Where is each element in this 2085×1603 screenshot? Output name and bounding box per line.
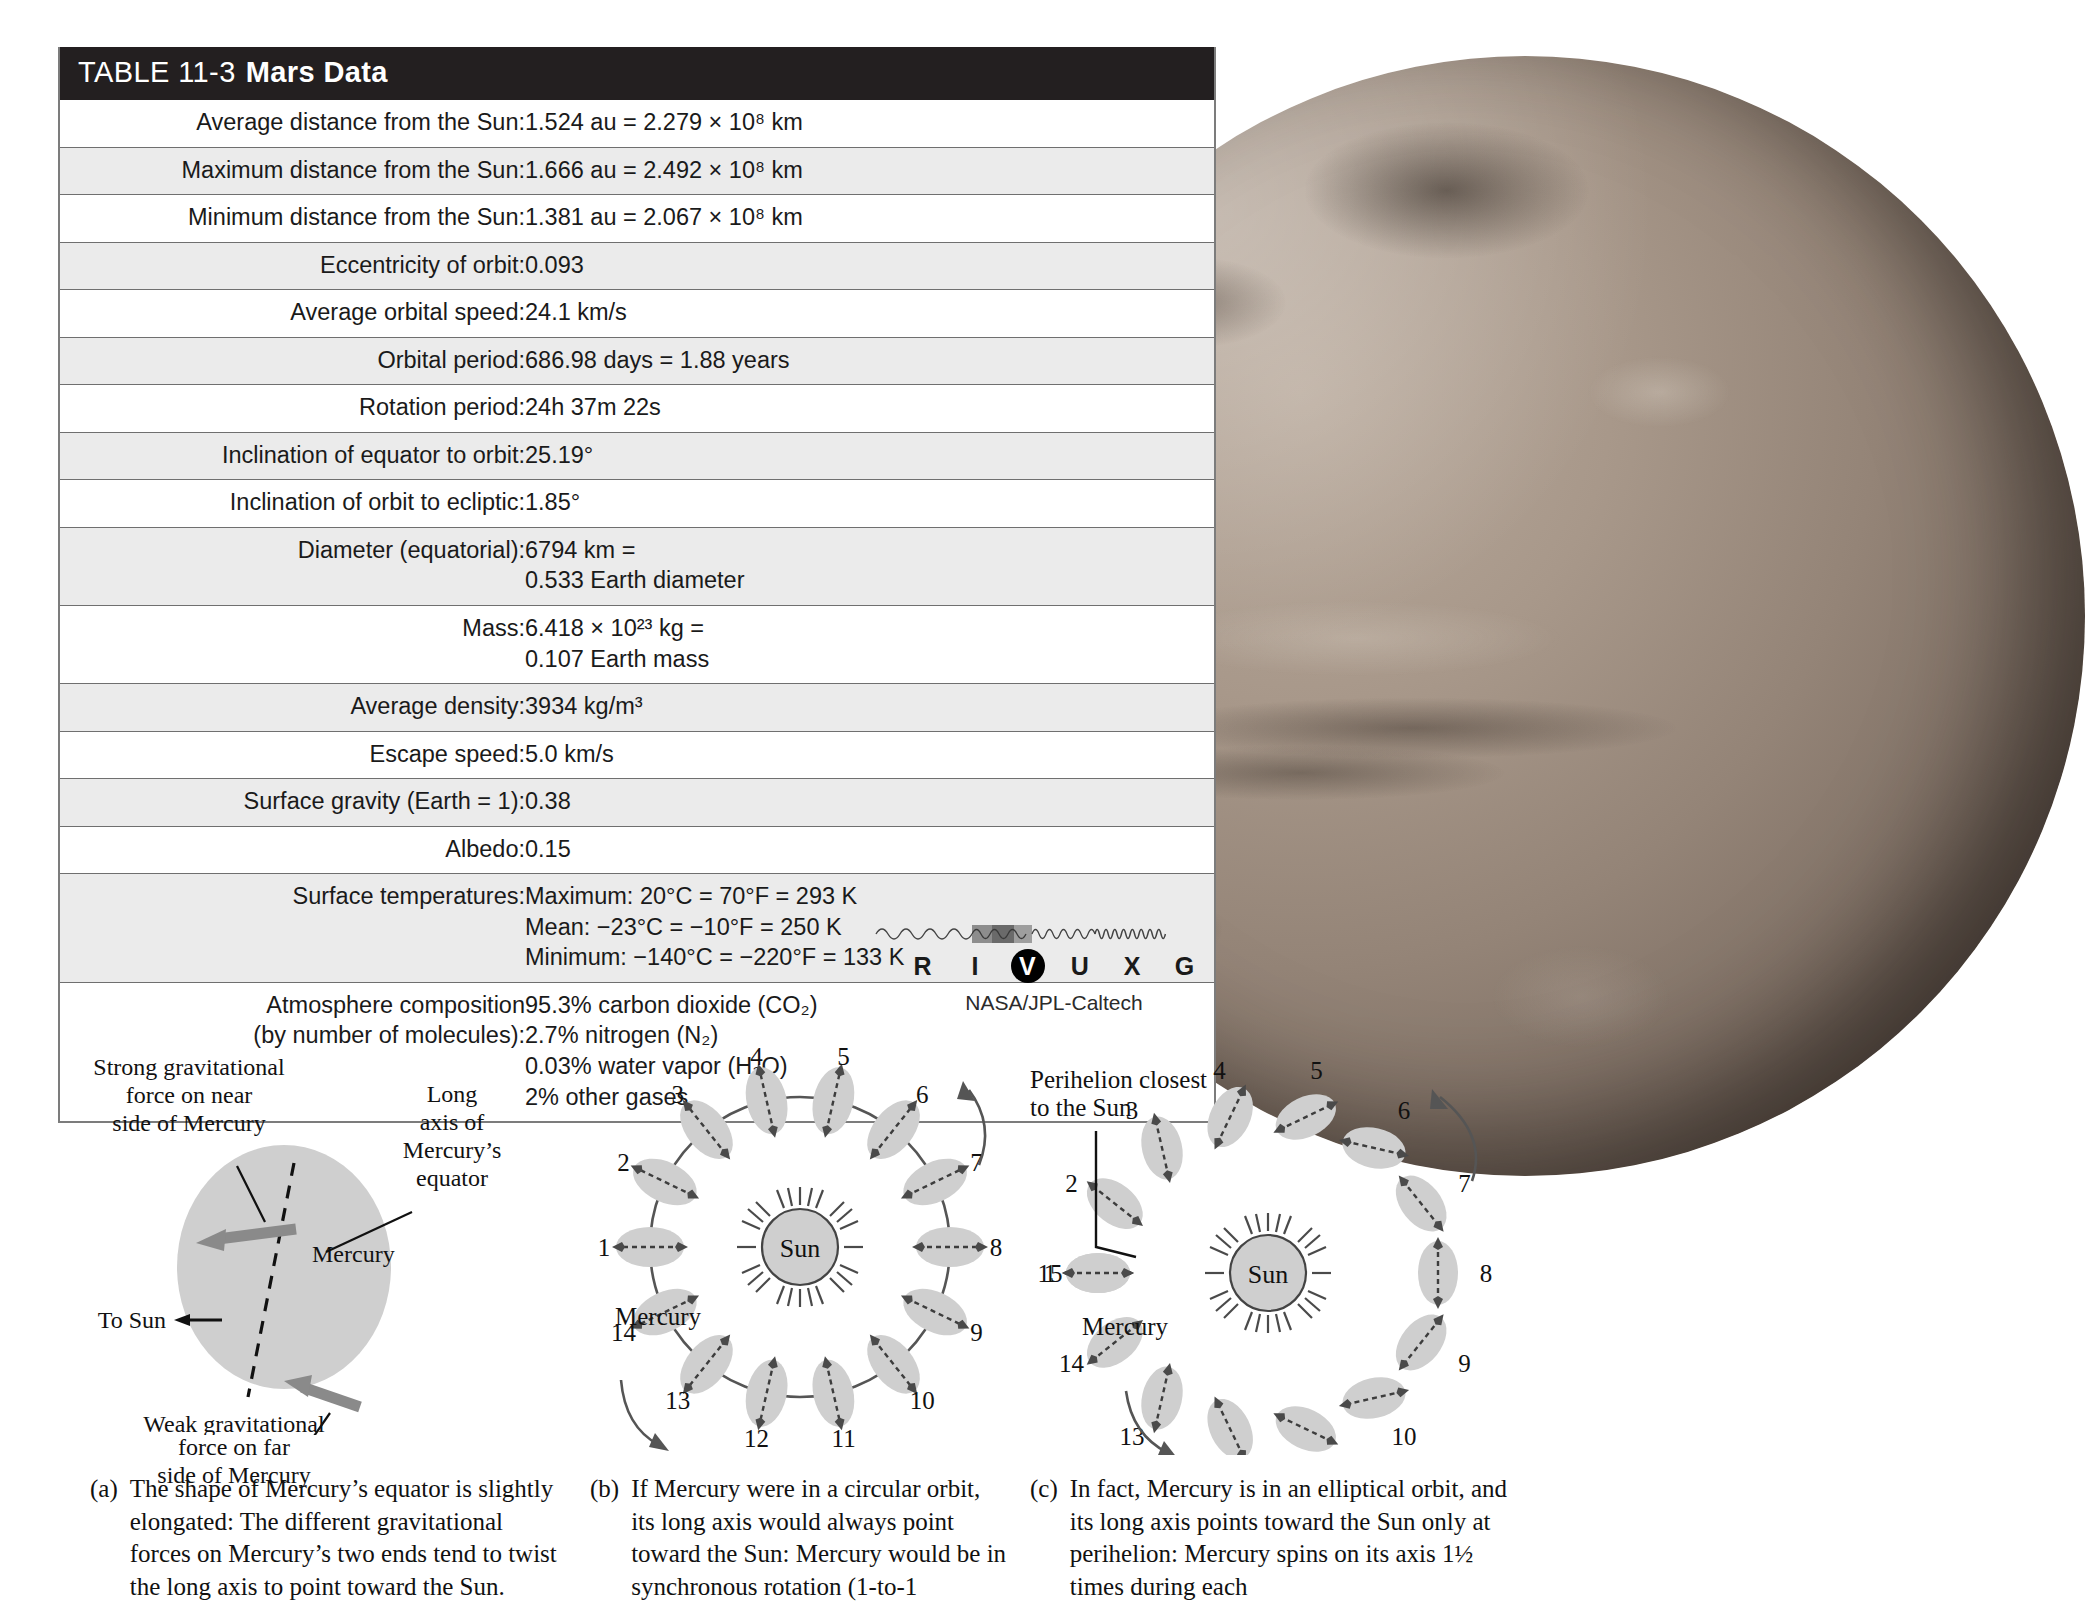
table-number-label: TABLE 11-3 (78, 56, 236, 88)
table-row-value: 1.666 au = 2.492 × 10⁸ km (525, 147, 1214, 195)
table-row: Minimum distance from the Sun:1.381 au =… (60, 195, 1214, 243)
mercury-marker (805, 1059, 861, 1142)
wavelength-letter-u: U (1063, 952, 1097, 981)
long-axis-label-line1: Long (427, 1081, 478, 1107)
orbit-position-number: 4 (750, 1043, 763, 1070)
perihelion-label-line1: Perihelion closest (1030, 1066, 1207, 1093)
caption-a: (a) The shape of Mercury’s equator is sl… (90, 1473, 570, 1603)
table-row-label: Average distance from the Sun: (60, 100, 525, 147)
orbit-position-number: 5 (837, 1043, 850, 1070)
figure-panel-a: Strong gravitational force on near side … (62, 1035, 562, 1495)
orbit-position-number: 13 (665, 1387, 690, 1414)
orbit-position-number: 13 (1120, 1423, 1145, 1450)
orbit-position-number: 7 (1458, 1170, 1471, 1197)
caption-c: (c) In fact, Mercury is in an elliptical… (1030, 1473, 1530, 1603)
table-row-label: Maximum distance from the Sun: (60, 147, 525, 195)
table-row-value: 24.1 km/s (525, 290, 1214, 338)
mercury-marker (1334, 1120, 1413, 1175)
table-row-label: Mass: (60, 606, 525, 684)
table-row: Maximum distance from the Sun:1.666 au =… (60, 147, 1214, 195)
orbit-position-number: 2 (617, 1149, 630, 1176)
long-axis-label-line3: Mercury’s (403, 1137, 502, 1163)
caption-c-key: (c) (1030, 1473, 1058, 1603)
mercury-marker (1074, 1165, 1155, 1241)
table-row-value: 5.0 km/s (525, 731, 1214, 779)
orbit-position-number: 2 (1065, 1170, 1078, 1197)
table-row: Orbital period:686.98 days = 1.88 years (60, 337, 1214, 385)
mercury-marker (1383, 1302, 1459, 1383)
to-sun-label: To Sun (98, 1307, 166, 1333)
mercury-marker (739, 1352, 795, 1435)
table-row: Inclination of orbit to ecliptic:1.85° (60, 480, 1214, 528)
wavelength-letter-v-highlighted: V (1011, 949, 1045, 983)
table-row-label: Diameter (equatorial): (60, 527, 525, 605)
image-credit: NASA/JPL-Caltech (874, 991, 1234, 1015)
table-row-label: Surface gravity (Earth = 1): (60, 779, 525, 827)
table-row-value: 686.98 days = 1.88 years (525, 337, 1214, 385)
elliptical-orbit-diagram: Sun 123456789101112131415 Perihelion clo… (1020, 1035, 1520, 1455)
mercury-marker (1265, 1395, 1347, 1455)
table-row: Average density:3934 kg/m³ (60, 684, 1214, 732)
weak-force-label-line1: Weak gravitational (143, 1411, 325, 1435)
table-row-value: 6.418 × 10²³ kg = 0.107 Earth mass (525, 606, 1214, 684)
orbit-position-number: 4 (1213, 1057, 1226, 1084)
table-row-label: Eccentricity of orbit: (60, 242, 525, 290)
orbit-position-number: 8 (1480, 1260, 1493, 1287)
caption-a-key: (a) (90, 1473, 118, 1603)
mercury-label-c: Mercury (1082, 1313, 1169, 1340)
caption-b: (b) If Mercury were in a circular orbit,… (590, 1473, 1010, 1603)
mercury-marker (1334, 1371, 1413, 1426)
perihelion-label-line2: to the Sun (1030, 1094, 1132, 1121)
table-row-label: Inclination of orbit to ecliptic: (60, 480, 525, 528)
mercury-marker (1197, 1388, 1264, 1455)
mercury-body-label: Mercury (312, 1241, 395, 1267)
sun-symbol-c: Sun (1205, 1213, 1331, 1333)
wavelength-letters: R I V U X G (906, 949, 1202, 983)
table-row-label: Escape speed: (60, 731, 525, 779)
orbit-position-number: 8 (990, 1234, 1003, 1261)
table-row-value: 24h 37m 22s (525, 385, 1214, 433)
strong-force-label-line1: Strong gravitational (93, 1054, 285, 1080)
table-row-label: Surface temperatures: (60, 874, 525, 983)
mercury-marker (1418, 1237, 1458, 1309)
table-row-value: 1.381 au = 2.067 × 10⁸ km (525, 195, 1214, 243)
caption-c-text: In fact, Mercury is in an elliptical orb… (1070, 1473, 1530, 1603)
mercury-marker (1062, 1253, 1134, 1293)
mercury-label-b: Mercury (615, 1303, 702, 1330)
table-row: Eccentricity of orbit:0.093 (60, 242, 1214, 290)
sun-label-c: Sun (1248, 1260, 1288, 1289)
table-row-value: 3934 kg/m³ (525, 684, 1214, 732)
wavelength-key: R I V U X G NASA/JPL-Caltech (874, 921, 1234, 1015)
table-row-label: Average density: (60, 684, 525, 732)
table-row: Albedo:0.15 (60, 826, 1214, 874)
table-row: Rotation period:24h 37m 22s (60, 385, 1214, 433)
table-row-value: 0.38 (525, 779, 1214, 827)
orbit-position-number: 6 (916, 1081, 929, 1108)
table-header: TABLE 11-3Mars Data (60, 47, 1214, 100)
orbit-position-number: 9 (1458, 1350, 1471, 1377)
orbit-position-number: 10 (1391, 1423, 1416, 1450)
orbit-position-number: 3 (672, 1081, 685, 1108)
mercury-marker (805, 1352, 861, 1435)
mercury-marker (1134, 1108, 1189, 1187)
orbit-position-number: 6 (1398, 1097, 1411, 1124)
circular-orbit-diagram: Sun 1234567891011121314 Mercury (575, 1035, 1025, 1455)
table-row: Average distance from the Sun:1.524 au =… (60, 100, 1214, 147)
orbit-position-number: 1 (598, 1234, 611, 1261)
mercury-marker (1383, 1163, 1459, 1244)
table-row: Escape speed:5.0 km/s (60, 731, 1214, 779)
wavelength-letter-x: X (1116, 952, 1150, 981)
weak-force-label-line2: force on far (178, 1434, 290, 1460)
table-row-label: Average orbital speed: (60, 290, 525, 338)
table-row-label: Rotation period: (60, 385, 525, 433)
table-row: Inclination of equator to orbit:25.19° (60, 432, 1214, 480)
orbit-direction-arrow-b-lower (621, 1380, 669, 1451)
figure-panel-b: Sun 1234567891011121314 Mercury (575, 1035, 1025, 1455)
mercury-marker (912, 1227, 988, 1267)
sun-symbol: Sun (737, 1187, 863, 1307)
mercury-marker (892, 1278, 978, 1347)
table-row-value: 25.19° (525, 432, 1214, 480)
long-axis-label-line4: equator (416, 1165, 488, 1191)
mercury-body (177, 1145, 391, 1389)
table-row-value: 0.15 (525, 826, 1214, 874)
